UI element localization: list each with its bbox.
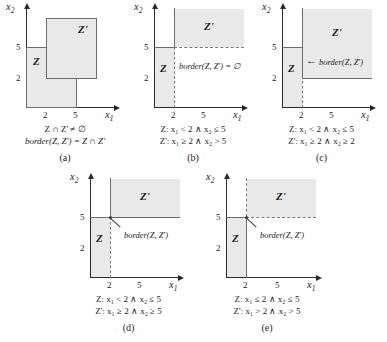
border-leader-line xyxy=(110,218,120,227)
region-z xyxy=(283,47,302,107)
x-axis xyxy=(226,277,318,278)
region-z xyxy=(227,217,246,277)
x-tick-5: 5 xyxy=(73,110,78,120)
panel-e: x2 x1 Z Z' border(Z, Z') 5 2 2 5 Z: x₁ ≤… xyxy=(198,170,336,342)
region-z-prime-bottom-edge-dashed xyxy=(246,217,316,218)
panel-a: x2 x1 Z Z' 5 2 2 5 Z ∩ Z' ≠ ∅ border(Z, … xyxy=(0,0,130,170)
region-z-prime-bottom-edge-dashed xyxy=(174,47,244,48)
caption-line-1: Z: x₁ < 2 ∧ x₂ ≤ 5 xyxy=(62,294,195,304)
x-tick-2: 2 xyxy=(107,280,112,290)
region-z-label: Z xyxy=(288,62,295,74)
region-z-prime-left-edge-dashed xyxy=(246,178,247,217)
y-axis-arrow xyxy=(24,3,30,9)
panel-b: x2 x1 Z Z' border(Z, Z') = ∅ 5 2 2 5 Z: … xyxy=(128,0,258,170)
region-z-top-edge xyxy=(226,217,247,218)
y-axis-arrow xyxy=(152,3,158,9)
x-tick-2: 2 xyxy=(43,110,48,120)
y-tick-2: 2 xyxy=(216,243,221,253)
region-z-prime-left-edge xyxy=(174,8,175,47)
region-z-prime-label: Z' xyxy=(140,190,150,202)
x-axis-label: x1 xyxy=(105,109,113,123)
border-annotation: border(Z, Z') xyxy=(319,57,363,67)
y-axis-label: x2 xyxy=(262,1,270,15)
panel-letter-d: (d) xyxy=(62,322,195,333)
x-axis-arrow xyxy=(114,105,120,111)
y-tick-5: 5 xyxy=(16,42,21,52)
x-axis xyxy=(90,277,180,278)
caption-line-1: Z: x₁ < 2 ∧ x₂ ≤ 5 xyxy=(256,124,387,134)
panel-letter-a: (a) xyxy=(0,152,130,163)
region-z-prime-label: Z' xyxy=(204,20,214,32)
x-axis-label: x1 xyxy=(169,279,177,293)
x-tick-5: 5 xyxy=(201,110,206,120)
y-tick-2: 2 xyxy=(16,73,21,83)
region-z-label: Z xyxy=(96,232,103,244)
panel-letter-e: (e) xyxy=(198,322,336,333)
x-tick-2: 2 xyxy=(243,280,248,290)
region-z-label: Z xyxy=(232,232,239,244)
panel-letter-c: (c) xyxy=(256,152,387,163)
y-tick-5: 5 xyxy=(80,212,85,222)
panel-d: x2 x1 Z Z' border(Z, Z') 5 2 2 5 Z: x₁ <… xyxy=(62,170,195,342)
x-tick-5: 5 xyxy=(329,110,334,120)
border-leader-line xyxy=(246,218,256,227)
region-z-top-edge xyxy=(282,47,303,48)
border-annotation: border(Z, Z') xyxy=(124,230,168,240)
y-tick-2: 2 xyxy=(272,73,277,83)
region-z-prime-label: Z' xyxy=(276,190,286,202)
region-z-label: Z xyxy=(33,55,40,67)
border-arrow-icon: ← xyxy=(306,54,317,66)
y-axis-arrow xyxy=(88,173,94,179)
x-axis-label: x1 xyxy=(233,109,241,123)
region-z-top-edge xyxy=(154,47,175,48)
caption-line-2: Z': x₁ ≥ 2 ∧ x₂ > 5 xyxy=(128,136,258,146)
region-z-prime xyxy=(303,9,372,78)
y-axis-label: x2 xyxy=(134,1,142,15)
panel-c: x2 x1 Z Z' ← border(Z, Z') 5 2 2 5 Z: x₁… xyxy=(256,0,387,170)
region-z-right-edge-dashed xyxy=(110,217,111,278)
figure-border-zones: x2 x1 Z Z' 5 2 2 5 Z ∩ Z' ≠ ∅ border(Z, … xyxy=(0,0,387,342)
border-annotation: border(Z, Z') = ∅ xyxy=(179,61,240,71)
panel-letter-b: (b) xyxy=(128,152,258,163)
caption-line-1: Z: x₁ ≤ 2 ∧ x₂ ≤ 5 xyxy=(198,294,336,304)
caption-line-2: Z': x₁ ≥ 2 ∧ x₂ ≥ 5 xyxy=(62,306,195,316)
y-tick-2: 2 xyxy=(80,243,85,253)
region-z-prime-left-edge xyxy=(110,178,111,217)
region-z-prime-label: Z' xyxy=(332,26,342,38)
region-z-prime xyxy=(46,18,97,79)
caption-line-2: Z': x₁ ≥ 2 ∧ x₂ ≥ 2 xyxy=(256,136,387,146)
region-z-label: Z xyxy=(160,62,167,74)
region-z-top-edge xyxy=(90,217,111,218)
y-axis-label: x2 xyxy=(70,171,78,185)
region-z xyxy=(155,47,174,107)
y-axis-label: x2 xyxy=(206,171,214,185)
region-z xyxy=(91,217,110,277)
region-z-right-edge xyxy=(246,217,247,278)
x-tick-5: 5 xyxy=(137,280,142,290)
x-tick-2: 2 xyxy=(171,110,176,120)
x-axis-arrow xyxy=(316,275,322,281)
x-tick-5: 5 xyxy=(275,280,280,290)
region-z-prime-bottom-edge xyxy=(110,217,180,218)
x-axis-label: x1 xyxy=(307,279,315,293)
x-tick-2: 2 xyxy=(299,110,304,120)
y-tick-5: 5 xyxy=(216,212,221,222)
region-z-prime-bottom-edge xyxy=(302,78,372,79)
y-axis-arrow xyxy=(224,173,230,179)
y-tick-5: 5 xyxy=(272,42,277,52)
caption-line-2: Z': x₁ > 2 ∧ x₂ > 5 xyxy=(198,306,336,316)
caption-line-1: Z ∩ Z' ≠ ∅ xyxy=(0,124,130,134)
x-axis-arrow xyxy=(370,105,376,111)
region-z-right-edge-dashed xyxy=(174,47,175,108)
region-z-prime-label: Z' xyxy=(78,23,88,35)
region-z-prime-left-edge xyxy=(302,8,303,78)
x-axis-arrow xyxy=(178,275,184,281)
caption-line-1: Z: x₁ < 2 ∧ x₂ ≤ 5 xyxy=(128,124,258,134)
y-tick-2: 2 xyxy=(144,73,149,83)
x-axis-arrow xyxy=(242,105,248,111)
caption-line-2: border(Z, Z') = Z ∩ Z' xyxy=(0,136,130,146)
y-tick-5: 5 xyxy=(144,42,149,52)
x-axis xyxy=(154,107,244,108)
y-axis-label: x2 xyxy=(6,1,14,15)
x-axis xyxy=(282,107,372,108)
